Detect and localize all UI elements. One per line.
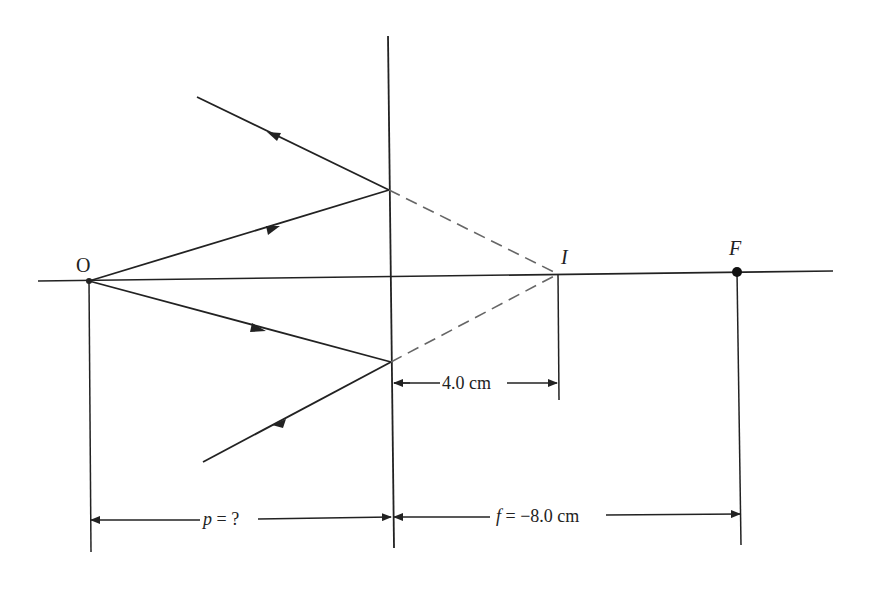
ray-diagram: O I F 4.0 cm p = ? f = −8.0 cm [0, 0, 875, 591]
incident-ray-upper [89, 190, 389, 281]
object-label: O [76, 254, 90, 276]
virtual-ray-lower [391, 274, 558, 362]
image-distance-label: 4.0 cm [442, 373, 491, 393]
arrow-icon [266, 226, 280, 235]
focal-point-marker [732, 267, 742, 277]
reflected-ray-upper [197, 97, 389, 190]
principal-axis [38, 271, 833, 281]
object-distance-label: p = ? [201, 509, 239, 529]
focal-extension-line [737, 272, 741, 545]
object-distance-line-right [258, 517, 391, 519]
incident-ray-lower [89, 281, 391, 362]
virtual-ray-upper [389, 190, 558, 274]
mirror-line [388, 36, 394, 548]
focal-point-label: F [728, 237, 742, 259]
focal-length-line-right [606, 514, 740, 515]
arrow-icon [267, 132, 281, 141]
image-extension-line [558, 274, 559, 400]
image-label: I [560, 246, 569, 268]
focal-length-label: f = −8.0 cm [496, 506, 579, 526]
object-point [86, 278, 92, 284]
object-extension-line [89, 281, 91, 552]
reflected-ray-lower [203, 362, 391, 462]
